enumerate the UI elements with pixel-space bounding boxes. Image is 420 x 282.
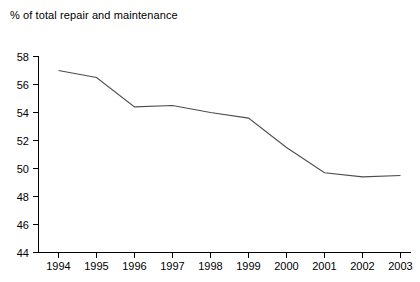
x-tick-label: 1994 (46, 260, 70, 272)
y-tick-labels: 58 56 54 52 50 48 46 44 (17, 51, 29, 259)
y-tick-marks (33, 57, 39, 253)
y-tick-label: 54 (17, 107, 29, 119)
data-series-line (59, 71, 401, 177)
line-chart: % of total repair and maintenance 58 56 … (0, 0, 420, 282)
x-tick-labels: 1994 1995 1996 1997 1998 1999 2000 2001 … (46, 260, 412, 272)
x-tick-label: 2000 (274, 260, 298, 272)
y-tick-label: 48 (17, 191, 29, 203)
y-axis: 58 56 54 52 50 48 46 44 (17, 51, 39, 259)
x-axis: 1994 1995 1996 1997 1998 1999 2000 2001 … (39, 253, 413, 273)
y-tick-label: 52 (17, 135, 29, 147)
plot-area: 58 56 54 52 50 48 46 44 (0, 0, 420, 282)
x-tick-label: 1999 (236, 260, 260, 272)
y-tick-label: 50 (17, 163, 29, 175)
x-tick-label: 1996 (122, 260, 146, 272)
y-tick-label: 58 (17, 51, 29, 63)
y-tick-label: 44 (17, 247, 29, 259)
x-tick-label: 1995 (84, 260, 108, 272)
x-tick-label: 1998 (198, 260, 222, 272)
x-tick-label: 2003 (388, 260, 412, 272)
x-tick-label: 2002 (350, 260, 374, 272)
y-tick-label: 46 (17, 219, 29, 231)
x-tick-label: 2001 (312, 260, 336, 272)
x-tick-marks (59, 253, 401, 259)
x-tick-label: 1997 (160, 260, 184, 272)
y-tick-label: 56 (17, 79, 29, 91)
